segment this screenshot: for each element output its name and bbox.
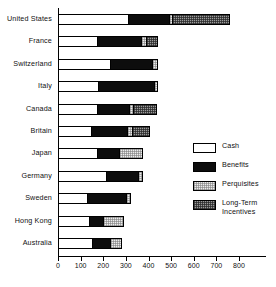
bar-segment	[93, 238, 111, 249]
bar-segment	[58, 171, 107, 182]
x-axis-tick	[194, 257, 195, 261]
category-label: France	[29, 37, 52, 45]
category-axis-labels: United StatesFranceSwitzerlandItalyCanad…	[0, 0, 55, 256]
x-axis-tick	[81, 257, 82, 261]
horizontal-stacked-bar-chart: United StatesFranceSwitzerlandItalyCanad…	[0, 0, 276, 287]
bar-segment	[133, 126, 150, 137]
bar-segment	[129, 14, 170, 25]
bar-segment	[92, 126, 128, 137]
bar-segment	[58, 193, 88, 204]
perquisites-swatch	[193, 181, 216, 191]
x-axis-tick-label: 100	[75, 262, 87, 270]
long-term-incentives-swatch	[193, 200, 216, 210]
legend-label: Cash	[222, 142, 239, 151]
x-axis-tick-label: 700	[210, 262, 222, 270]
category-label: Germany	[21, 172, 52, 180]
bar-segment	[90, 216, 104, 227]
category-label: Italy	[38, 82, 52, 90]
category-label: Japan	[32, 149, 52, 157]
x-axis-tick-label: 0	[56, 262, 60, 270]
bar-segment	[58, 216, 90, 227]
x-axis-tick	[58, 257, 59, 261]
bar-segment	[111, 238, 122, 249]
bar-segment	[111, 59, 154, 70]
bar-segment	[127, 193, 131, 204]
bar-segment	[104, 216, 124, 227]
cash-swatch	[193, 143, 216, 153]
bar-segment	[58, 148, 98, 159]
legend-label: Benefits	[222, 161, 249, 170]
bar-segment	[99, 81, 155, 92]
bar-segment	[98, 36, 142, 47]
category-label: United States	[7, 15, 52, 23]
category-label: Australia	[23, 239, 52, 247]
bar-segment	[98, 104, 130, 115]
bar-segment	[58, 238, 93, 249]
bar-segment	[88, 193, 127, 204]
bar-segment	[98, 148, 120, 159]
bar-segment	[139, 171, 143, 182]
bar-segment	[58, 126, 92, 137]
x-axis-tick-label: 200	[97, 262, 109, 270]
x-axis-tick	[171, 257, 172, 261]
legend-item: Perquisites	[193, 180, 275, 197]
bar-segment	[58, 14, 129, 25]
chart-legend: CashBenefitsPerquisitesLong-Term Incenti…	[193, 142, 275, 218]
bar-segment	[107, 171, 139, 182]
category-label: Canada	[26, 105, 52, 113]
legend-item: Cash	[193, 142, 275, 159]
legend-item: Long-Term Incentives	[193, 199, 275, 216]
category-label: Hong Kong	[15, 217, 52, 225]
x-axis-tick-label: 600	[188, 262, 200, 270]
benefits-swatch	[193, 162, 216, 172]
plot-area: 0100200300400500600700800	[58, 8, 272, 256]
bar-segment	[134, 104, 157, 115]
x-axis-tick-label: 300	[120, 262, 132, 270]
x-axis-tick	[149, 257, 150, 261]
category-label: Sweden	[25, 194, 52, 202]
bar-segment	[58, 81, 99, 92]
bar-segment	[155, 81, 158, 92]
x-axis-tick-label: 500	[165, 262, 177, 270]
x-axis-tick	[126, 257, 127, 261]
bar-segment	[173, 14, 231, 25]
bar-segment	[153, 59, 157, 70]
x-axis-tick-label: 400	[143, 262, 155, 270]
category-label: Britain	[31, 127, 52, 135]
bar-segment	[58, 104, 98, 115]
bar-segment	[58, 59, 111, 70]
bar-segment	[120, 148, 143, 159]
x-axis-tick	[216, 257, 217, 261]
legend-label: Perquisites	[222, 180, 259, 189]
x-axis-tick	[103, 257, 104, 261]
legend-item: Benefits	[193, 161, 275, 178]
legend-label: Long-Term Incentives	[222, 199, 257, 216]
x-axis-tick	[239, 257, 240, 261]
x-axis-tick-label: 800	[233, 262, 245, 270]
bar-segment	[147, 36, 158, 47]
bar-segment	[58, 36, 98, 47]
category-label: Switzerland	[13, 60, 52, 68]
x-axis-line	[58, 256, 266, 257]
